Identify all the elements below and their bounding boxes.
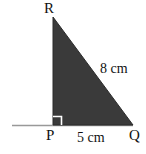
vertex-label-r: R (44, 1, 54, 16)
vertex-label-p: P (46, 128, 54, 143)
triangle-diagram-canvas (0, 0, 146, 154)
geometry-figure: R P Q 8 cm 5 cm (0, 0, 146, 154)
side-length-hypotenuse: 8 cm (100, 62, 128, 76)
vertex-label-q: Q (129, 128, 140, 143)
side-length-base: 5 cm (77, 131, 105, 145)
